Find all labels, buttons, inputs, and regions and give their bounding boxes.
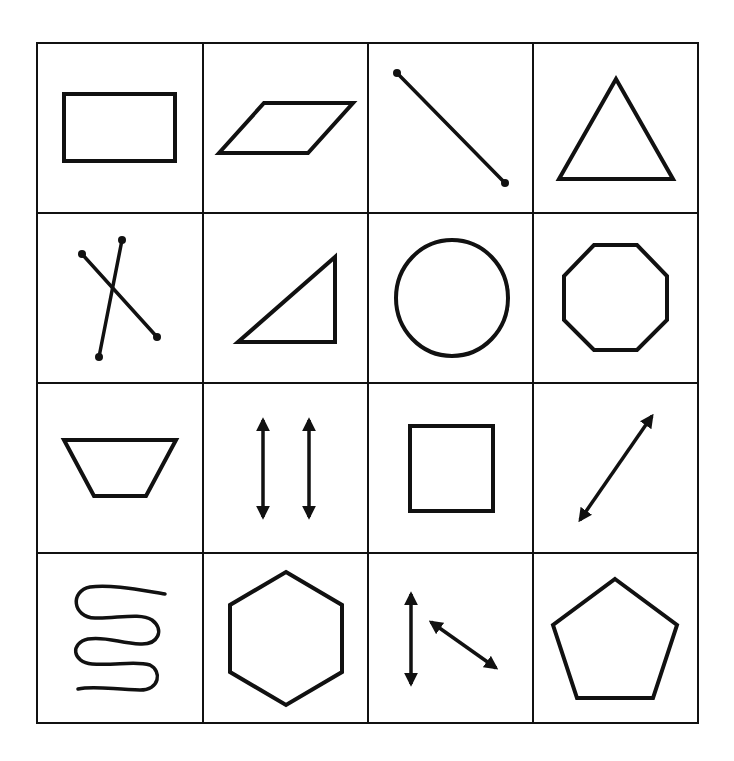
endpoint-dot (153, 333, 161, 341)
wavy-curve-shape (76, 586, 165, 690)
cell-triangle (559, 79, 673, 179)
trapezoid-shape (64, 440, 176, 496)
square-shape (410, 426, 493, 511)
endpoint-dot (118, 236, 126, 244)
endpoint-dot (78, 250, 86, 258)
cell-parallel-lines (263, 420, 309, 517)
rectangle-shape (64, 94, 175, 161)
double-arrow-line (431, 622, 496, 668)
cell-trapezoid (64, 440, 176, 496)
line-segment-shape (99, 240, 122, 357)
endpoint-dot (501, 179, 509, 187)
cell-non-parallel-lines (411, 594, 496, 684)
cell-curve (76, 586, 165, 690)
cell-pentagon (553, 579, 677, 698)
cell-hexagon (230, 572, 342, 705)
shape-grid-figure (0, 0, 734, 761)
cell-parallelogram (219, 103, 353, 153)
double-arrow-line (580, 416, 652, 520)
cell-circle (396, 240, 508, 356)
triangle-shape (559, 79, 673, 179)
line-segment-shape (82, 254, 157, 337)
grid (37, 43, 698, 723)
cell-line (580, 416, 652, 520)
right-triangle-shape (238, 257, 335, 342)
octagon-shape (564, 245, 667, 350)
cell-line-segment (393, 69, 509, 187)
cell-octagon (564, 245, 667, 350)
cell-right-triangle (238, 257, 335, 342)
line-segment-shape (397, 73, 505, 183)
cell-intersecting-segments (78, 236, 161, 361)
endpoint-dot (393, 69, 401, 77)
pentagon-shape (553, 579, 677, 698)
cell-square (410, 426, 493, 511)
cell-rectangle (64, 94, 175, 161)
endpoint-dot (95, 353, 103, 361)
parallelogram-shape (219, 103, 353, 153)
circle-shape (396, 240, 508, 356)
hexagon-shape (230, 572, 342, 705)
